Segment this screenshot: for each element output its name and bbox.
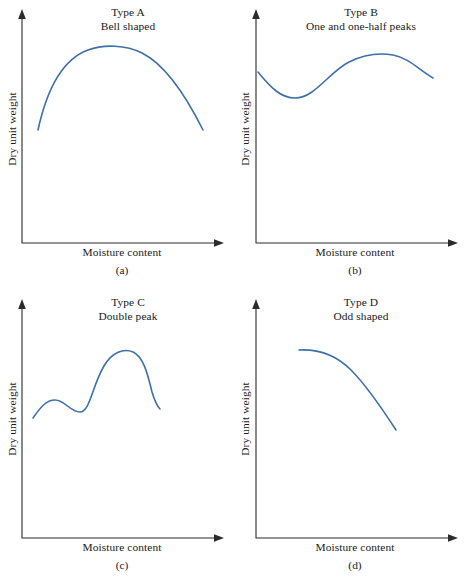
panel-title-line-1-c: Type C: [30, 296, 226, 310]
panel-title-line-2-d: Odd shaped: [263, 310, 459, 324]
y-axis-label-b: Dry unit weight: [239, 74, 251, 184]
y-axis-arrow-b: [252, 9, 260, 19]
x-axis-label-c: Moisture content: [22, 541, 222, 553]
axes-d: [256, 307, 450, 538]
axes-b: [256, 17, 450, 243]
panel-title-b: Type B One and one-half peaks: [263, 6, 459, 33]
panel-type-c: Type C Double peak Dry unit weight Moist…: [0, 290, 232, 579]
axes-c: [22, 307, 216, 538]
panel-title-d: Type D Odd shaped: [263, 296, 459, 323]
curve-type-d: [299, 350, 396, 430]
panel-title-line-2-a: Bell shaped: [30, 20, 226, 34]
y-axis-arrow-d: [252, 299, 260, 309]
panel-caption-b: (b): [255, 264, 455, 276]
panel-title-line-1-b: Type B: [263, 6, 459, 20]
panel-caption-a: (a): [22, 264, 222, 276]
y-axis-label-a: Dry unit weight: [6, 74, 18, 184]
curve-type-b: [258, 54, 433, 98]
axes-a: [22, 17, 216, 243]
curve-type-c: [33, 351, 160, 418]
curve-type-a: [38, 46, 203, 130]
y-axis-arrow-c: [18, 299, 26, 309]
x-axis-label-b: Moisture content: [255, 246, 455, 258]
y-axis-label-d: Dry unit weight: [239, 364, 251, 474]
y-axis-arrow-a: [18, 9, 26, 19]
panel-title-line-1-a: Type A: [30, 6, 226, 20]
plot-area-c: [0, 290, 232, 579]
panel-title-line-1-d: Type D: [263, 296, 459, 310]
panel-title-c: Type C Double peak: [30, 296, 226, 323]
x-axis-label-d: Moisture content: [255, 541, 455, 553]
panel-caption-c: (c): [22, 559, 222, 571]
x-axis-label-a: Moisture content: [22, 246, 222, 258]
panel-type-d: Type D Odd shaped Dry unit weight Moistu…: [233, 290, 465, 579]
panel-caption-d: (d): [255, 559, 455, 571]
panel-title-a: Type A Bell shaped: [30, 6, 226, 33]
figure-compaction-curve-types: Type A Bell shaped Dry unit weight Moist…: [0, 0, 465, 579]
panel-type-b: Type B One and one-half peaks Dry unit w…: [233, 0, 465, 289]
panel-title-line-2-b: One and one-half peaks: [263, 20, 459, 34]
plot-area-d: [233, 290, 465, 579]
panel-type-a: Type A Bell shaped Dry unit weight Moist…: [0, 0, 232, 289]
panel-title-line-2-c: Double peak: [30, 310, 226, 324]
y-axis-label-c: Dry unit weight: [6, 364, 18, 474]
